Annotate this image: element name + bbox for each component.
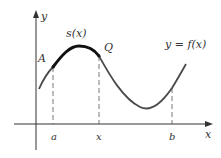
curve-left	[39, 67, 53, 89]
tick-label-x: x	[96, 131, 102, 142]
x-axis-label: x	[205, 128, 212, 141]
curve-label: y = f(x)	[164, 38, 206, 51]
arc-length-diagram: y x s(x) A Q y = f(x) a x b	[0, 0, 221, 158]
curve-right	[99, 56, 186, 109]
point-a-label: A	[37, 52, 46, 65]
point-a-marker	[51, 65, 54, 68]
arc-s-of-x	[53, 46, 99, 67]
tick-label-a: a	[51, 131, 57, 142]
point-q-marker	[97, 54, 100, 57]
x-axis-arrow-icon	[205, 121, 213, 127]
y-axis-arrow-icon	[33, 10, 39, 18]
arc-label: s(x)	[66, 27, 86, 40]
y-axis-label: y	[40, 10, 48, 23]
point-q-label: Q	[104, 41, 113, 54]
tick-label-b: b	[169, 131, 175, 142]
